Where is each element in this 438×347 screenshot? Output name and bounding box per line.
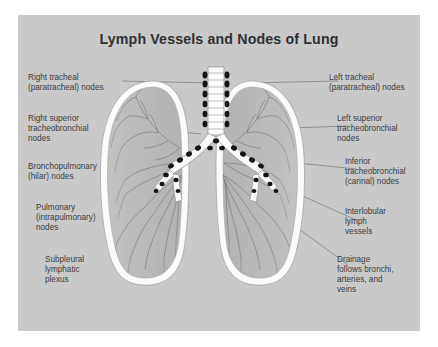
- label-drainage-follows-bronchi: Drainage follows bronchi, arteries, and …: [337, 255, 393, 295]
- label-inferior-tracheobronchial-carinal-nodes: Inferior tracheobronchial (carinal) node…: [345, 157, 406, 187]
- label-subpleural-lymphatic-plexus: Subpleural lymphatic plexus: [45, 255, 84, 285]
- label-right-superior-tracheobronchial-nodes: Right superior tracheobronchial nodes: [28, 114, 89, 144]
- label-interlobular-lymph-vessels: Interlobular lymph vessels: [345, 207, 386, 237]
- label-pulmonary-intrapulmonary-nodes: Pulmonary (intrapulmonary) nodes: [36, 203, 96, 233]
- label-left-tracheal-nodes: Left tracheal (paratracheal) nodes: [329, 73, 405, 93]
- label-left-superior-tracheobronchial-nodes: Left superior tracheobronchial nodes: [337, 114, 398, 144]
- label-bronchopulmonary-hilar-nodes: Bronchopulmonary (hilar) nodes: [28, 162, 97, 182]
- figure-lymph-vessels-and-nodes-of-lung: Lymph Vessels and Nodes of Lung: [0, 0, 438, 347]
- label-right-tracheal-nodes: Right tracheal (paratracheal) nodes: [28, 73, 104, 93]
- left-lung: [216, 81, 304, 285]
